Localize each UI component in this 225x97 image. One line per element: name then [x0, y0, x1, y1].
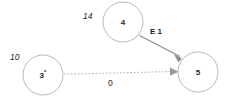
node-3-label-suffix: *: [44, 69, 46, 75]
node-4-distance-label: 14: [83, 12, 92, 21]
edge-3-to-5-line[interactable]: [64, 72, 170, 75]
edge-3-to-5-arrowhead: [170, 68, 179, 76]
edge-4-to-5-label: E 1: [150, 28, 162, 36]
node-4-label: 4: [121, 19, 125, 27]
edge-3-to-5-label: 0: [108, 79, 113, 88]
node-3-distance-label: 10: [10, 53, 19, 62]
node-3-label: 3*: [40, 72, 47, 80]
node-5-label: 5: [196, 69, 200, 77]
edge-4-to-5-line[interactable]: [140, 36, 181, 57]
graph-diagram-canvas: 4 14 3* 10 5 E 1 0: [0, 0, 225, 97]
